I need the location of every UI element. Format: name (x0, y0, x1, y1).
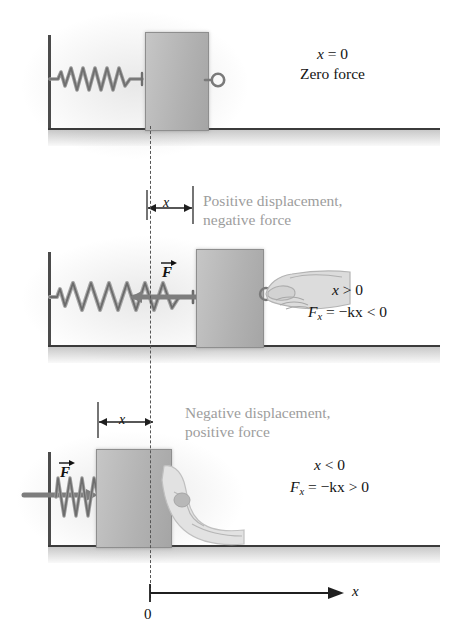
equilibrium-x-label: x = 0 (300, 44, 365, 64)
force-label-text: F (162, 264, 172, 280)
compressed-eq-x: x < 0 (290, 455, 369, 475)
vector-overbar-arrow-icon (59, 459, 75, 466)
figure-canvas: x = 0 Zero force x Positive displacement… (0, 0, 450, 640)
stretched-eq-force: Fx = −kx < 0 (308, 302, 387, 324)
dimension-label-x: x (163, 195, 169, 211)
vector-overbar-arrow-icon (161, 259, 177, 266)
panel-equilibrium: x = 0 Zero force (0, 0, 450, 180)
panel-stretched: x Positive displacement, negative force (0, 180, 450, 380)
panel-compressed: x Negative displacement, positive force (0, 380, 450, 580)
compressed-caption: Negative displacement, positive force (185, 404, 330, 442)
ground-shadow (48, 547, 440, 563)
compressed-equations: x < 0 Fx = −kx > 0 (290, 455, 369, 499)
equilibrium-force-label: Zero force (300, 64, 365, 84)
stretched-caption-line2: negative force (203, 211, 342, 230)
spring-coil-icon (50, 60, 147, 98)
mass-block (145, 32, 209, 131)
dimension-double-arrow-icon (97, 402, 155, 440)
stretched-caption: Positive displacement, negative force (203, 192, 342, 230)
equilibrium-reference-line (150, 126, 151, 598)
force-vector-arrow-icon (130, 288, 200, 306)
axis-arrow-icon (328, 587, 344, 599)
eq-x-symbol: x (314, 456, 321, 473)
compressed-eq-force: Fx = −kx > 0 (290, 477, 369, 499)
eq-x-rest: > 0 (339, 281, 363, 298)
x-axis-label: x (352, 583, 359, 600)
hand-pulling-icon (158, 462, 248, 548)
equilibrium-state-labels: x = 0 Zero force (300, 44, 365, 84)
ground-shadow (48, 347, 440, 363)
compressed-caption-line1: Negative displacement, (185, 404, 330, 423)
dimension-label-x: x (119, 412, 125, 428)
compressed-caption-line2: positive force (185, 423, 330, 442)
stretched-caption-line1: Positive displacement, (203, 192, 342, 211)
x-axis (148, 583, 348, 605)
force-label-text: F (60, 464, 70, 480)
eq-x-symbol: x (317, 45, 324, 62)
hook-loop-icon (205, 68, 231, 92)
mass-block (196, 249, 264, 348)
stretched-eq-x: x > 0 (308, 280, 387, 300)
eq-x-rest: < 0 (321, 456, 345, 473)
x-axis-origin-label: 0 (144, 606, 152, 623)
stretched-equations: x > 0 Fx = −kx < 0 (308, 280, 387, 324)
eq-F-rest: = −kx < 0 (322, 303, 387, 320)
eq-x-symbol: x (332, 281, 339, 298)
eq-F-rest: = −kx > 0 (304, 478, 369, 495)
dimension-double-arrow-icon (146, 186, 194, 226)
ground-shadow (48, 130, 440, 146)
eq-x-rest: = 0 (324, 45, 348, 62)
